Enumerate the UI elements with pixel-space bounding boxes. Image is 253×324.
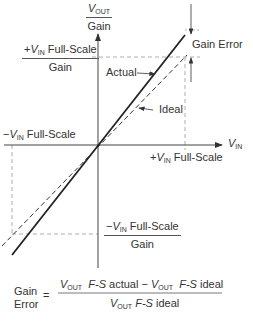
y-axis-label: VOUT Gain	[86, 3, 112, 32]
ideal-label: Ideal	[159, 104, 183, 115]
neg-full-scale-label: −VIN Full-Scale	[3, 129, 76, 141]
pos-full-scale-gain-label: +VIN Full-Scale Gain	[22, 44, 99, 73]
x-axis-label: VIN	[228, 138, 242, 150]
formula-equals: =	[43, 290, 49, 301]
neg-full-scale-gain-label: −VIN Full-Scale Gain	[104, 221, 181, 250]
actual-label: Actual	[106, 67, 137, 78]
ideal-leader-arrow	[139, 108, 153, 110]
formula-numerator: VOUT F-S actual − VOUT F-S ideal	[60, 279, 223, 291]
formula-denominator: VOUT F-S ideal	[110, 298, 179, 310]
gain-error-label: Gain Error	[192, 39, 243, 50]
actual-leader-arrow	[137, 73, 155, 74]
formula-lhs: Gain Error	[14, 285, 38, 311]
pos-full-scale-label: +VIN Full-Scale	[150, 152, 223, 164]
